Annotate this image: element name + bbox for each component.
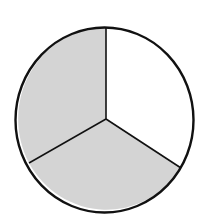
fraction-circle-diagram xyxy=(0,0,203,220)
